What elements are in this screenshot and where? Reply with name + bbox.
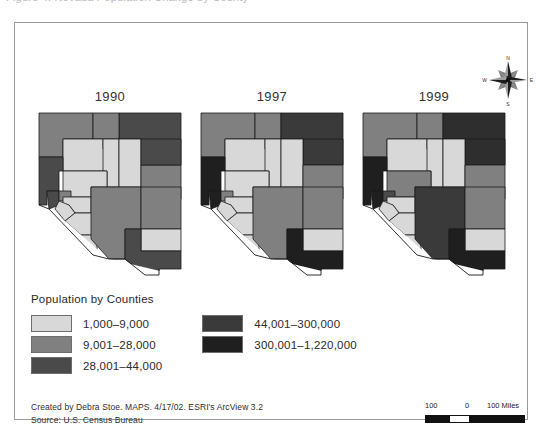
map-panel-1990: 1990 [35, 89, 185, 279]
top-caption: Figure 4. Nevada Population Change by Co… [0, 0, 542, 5]
scale-seg [450, 416, 470, 422]
nevada-choropleth-1990 [35, 109, 185, 279]
legend-item: 44,001–300,000 [202, 314, 357, 333]
legend-item: 1,000–9,000 [31, 314, 162, 333]
scale-label-mid: 0 [465, 401, 469, 410]
scale-label-left: 100 [425, 401, 438, 410]
scale-bar-graphic [425, 415, 525, 423]
legend-swatch [31, 336, 72, 353]
map-year-label: 1990 [35, 89, 185, 105]
legend-swatch [31, 357, 72, 374]
map-legend: Population by Counties 1,000–9,000 9,001… [31, 293, 361, 375]
credit-source-line: Source: U.S. Census Bureau [31, 414, 263, 427]
map-year-label: 1999 [359, 89, 509, 105]
map-panel-1999: 1999 [359, 89, 509, 279]
legend-item-label: 44,001–300,000 [254, 318, 340, 330]
credits-block: Created by Debra Stoe. MAPS. 4/17/02. ES… [31, 401, 263, 427]
legend-item-label: 9,001–28,000 [83, 339, 156, 351]
legend-item-label: 28,001–44,000 [83, 360, 162, 372]
legend-item: 300,001–1,220,000 [202, 335, 357, 354]
legend-column-left: 1,000–9,000 9,001–28,000 28,001–44,000 [31, 314, 162, 375]
legend-item: 9,001–28,000 [31, 335, 162, 354]
scale-seg [469, 416, 524, 422]
map-year-label: 1997 [197, 89, 347, 105]
scale-label-right: 100 Miles [487, 401, 519, 410]
figure-frame: N S E W 1990 [14, 22, 528, 420]
legend-item-label: 300,001–1,220,000 [254, 339, 357, 351]
scale-bar-labels: 100 0 100 Miles [425, 401, 525, 413]
credit-author-line: Created by Debra Stoe. MAPS. 4/17/02. ES… [31, 401, 263, 414]
nevada-choropleth-1999 [359, 109, 509, 279]
legend-swatch [202, 315, 243, 332]
scale-seg [426, 416, 450, 422]
nevada-choropleth-1997 [197, 109, 347, 279]
scale-bar: 100 0 100 Miles [425, 401, 525, 423]
map-panel-1997: 1997 [197, 89, 347, 279]
legend-title: Population by Counties [31, 293, 361, 305]
legend-item: 28,001–44,000 [31, 356, 162, 375]
legend-swatch [31, 315, 72, 332]
legend-column-right: 44,001–300,000 300,001–1,220,000 [202, 314, 357, 375]
compass-east-label: E [530, 77, 534, 83]
compass-north-label: N [506, 55, 510, 61]
compass-west-label: W [482, 77, 487, 83]
legend-swatch [202, 336, 243, 353]
legend-item-label: 1,000–9,000 [83, 318, 149, 330]
